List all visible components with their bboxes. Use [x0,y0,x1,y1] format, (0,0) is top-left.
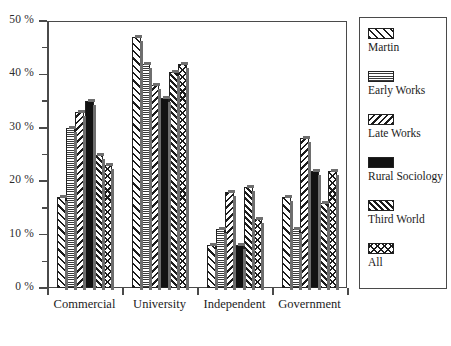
bar-shadow [224,233,227,290]
x-axis-tick [122,288,124,295]
legend-label: Late Works [368,127,421,139]
x-axis-tick [347,288,349,295]
bar-shadow [177,76,180,290]
bar-shadow [102,159,105,291]
bar-shadow [233,196,236,290]
bar-top-shadow [69,126,76,129]
bar-top-shadow [163,96,170,99]
bar-shadow [93,105,96,290]
legend-entry: Early Works [368,71,425,96]
legend-entry: Rural Sociology [368,157,443,182]
bar-top-shadow [256,217,263,220]
bar [57,197,66,288]
y-axis-tick-label: 20 % [0,173,34,185]
x-axis-category-label: Government [263,297,356,312]
legend-swatch [368,28,394,39]
x-axis-tick [197,288,199,295]
bar-shadow [327,207,330,290]
legend-entry: Late Works [368,114,421,139]
y-axis-major-tick [39,234,47,236]
bar-shadow [74,132,77,290]
bar-top-shadow [172,70,179,73]
legend-entry: Third World [368,200,425,225]
bar-shadow [168,102,171,290]
bar-chart-figure: 0 %10 %20 %30 %40 %50 % CommercialUniver… [0,0,451,346]
y-axis-tick-label: 10 % [0,227,34,239]
y-axis-major-tick [39,287,47,289]
y-axis-tick-label: 40 % [0,66,34,78]
bar-shadow [111,169,114,290]
bar [282,197,291,288]
bar-shadow [261,223,264,290]
bar-top-shadow [303,136,310,139]
legend-label: Martin [368,41,399,53]
bar-shadow [149,68,152,290]
bar-top-shadow [78,110,85,113]
legend-swatch [368,157,394,168]
bar-shadow [65,201,68,290]
bar-shadow [215,249,218,290]
legend-label: All [368,256,394,268]
bar-top-shadow [285,195,292,198]
bar-top-shadow [60,195,67,198]
y-axis-tick-label: 30 % [0,120,34,132]
x-axis-tick [272,288,274,295]
bar-top-shadow [247,185,254,188]
y-axis-tick-label: 0 % [0,280,34,292]
bar [132,37,141,288]
legend-swatch [368,243,394,254]
bar-top-shadow [181,62,188,65]
legend-swatch [368,114,394,125]
bar-shadow [336,175,339,290]
legend-swatch [368,200,394,211]
legend-label: Third World [368,213,425,225]
bar-shadow [318,175,321,290]
legend-label: Rural Sociology [368,170,443,182]
bar-shadow [83,116,86,290]
x-axis-tick [47,288,49,295]
y-axis-major-tick [39,74,47,76]
bar-top-shadow [219,227,226,230]
bar-shadow [158,89,161,290]
bar-top-shadow [210,243,217,246]
bar-shadow [252,191,255,290]
bar-top-shadow [97,153,104,156]
bar-top-shadow [322,201,329,204]
bar-shadow [186,68,189,290]
bar-top-shadow [313,169,320,172]
bar-top-shadow [331,169,338,172]
legend-label: Early Works [368,84,425,96]
y-axis-major-tick [39,127,47,129]
legend-entry: Martin [368,28,399,53]
bar-top-shadow [106,163,113,166]
bar-shadow [140,41,143,290]
bar-series-container [47,21,347,288]
y-axis-major-tick [39,180,47,182]
bar-top-shadow [238,243,245,246]
chart-legend: MartinEarly WorksLate WorksRural Sociolo… [359,17,447,289]
bar-top-shadow [144,62,151,65]
legend-swatch [368,71,394,82]
y-axis-major-tick [39,20,47,22]
bar-top-shadow [135,35,142,38]
bar-top-shadow [88,99,95,102]
bar-shadow [290,201,293,290]
bar-top-shadow [153,83,160,86]
bar [207,245,216,288]
bar-shadow [243,249,246,290]
bar-top-shadow [294,227,301,230]
legend-entry: All [368,243,394,268]
bar-shadow [308,142,311,290]
y-axis-tick-label: 50 % [0,13,34,25]
bar-top-shadow [228,190,235,193]
bar-shadow [299,233,302,290]
